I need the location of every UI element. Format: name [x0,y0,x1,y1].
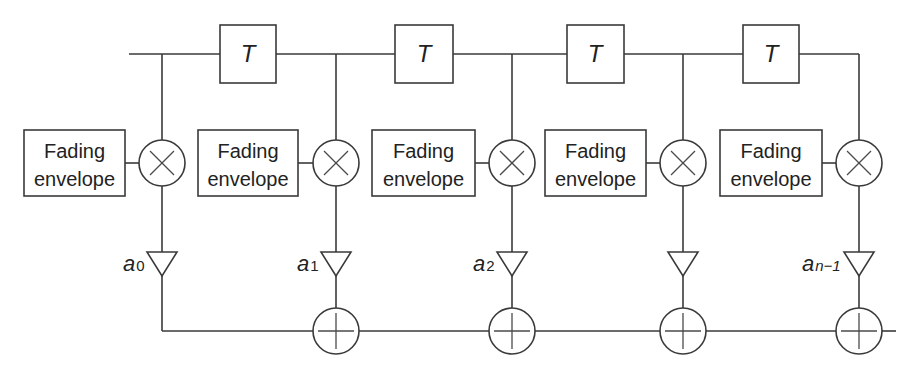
multiplier-icon [139,140,185,186]
fading-label-line2: envelope [383,168,464,190]
tap-1: Fading envelope a1 [198,54,359,354]
fading-label-line1: Fading [740,140,801,162]
delay-element-4: T [743,25,799,83]
coefficient-label: an−1 [802,251,841,276]
delay-label: T [241,40,258,67]
fading-label-line1: Fading [565,140,626,162]
multiplier-icon [836,140,882,186]
adder-icon [660,308,706,354]
tap-n-minus-1: Fading envelope an−1 [720,130,882,354]
gain-amplifier-icon [147,252,177,276]
fading-label-line2: envelope [34,168,115,190]
fading-label-line2: envelope [730,168,811,190]
fading-label-line2: envelope [207,168,288,190]
delay-label: T [588,40,605,67]
gain-amplifier-icon [668,252,698,276]
delay-element-3: T [567,25,624,83]
fading-label-line1: Fading [393,140,454,162]
multiplier-icon [313,140,359,186]
tap-2: Fading envelope a2 [372,54,535,354]
coefficient-label: a0 [123,251,145,276]
adder-icon [836,308,882,354]
fading-label-line2: envelope [555,168,636,190]
tapped-delay-line-diagram: T T T T Fading envelope a0 Fading env [0,0,913,377]
gain-amplifier-icon [497,252,527,276]
delay-element-1: T [220,25,276,83]
delay-label: T [764,40,781,67]
adder-icon [489,308,535,354]
multiplier-icon [489,140,535,186]
tap-3: Fading envelope [545,54,706,354]
delay-element-2: T [395,25,453,83]
fading-label-line1: Fading [217,140,278,162]
delay-label: T [417,40,434,67]
coefficient-label: a2 [473,251,495,276]
fading-label-line1: Fading [44,140,105,162]
coefficient-label: a1 [297,251,319,276]
gain-amplifier-icon [321,252,351,276]
adder-icon [313,308,359,354]
gain-amplifier-icon [844,252,874,276]
tap-0: Fading envelope a0 [24,54,185,331]
multiplier-icon [660,140,706,186]
